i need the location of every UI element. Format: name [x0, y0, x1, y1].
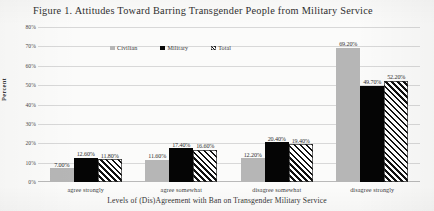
legend-item-military[interactable]: Military — [160, 45, 188, 51]
bar-civilian-agree-strongly[interactable]: 7.00% — [50, 168, 74, 182]
legend-label-military: Military — [167, 45, 188, 51]
y-tick-50: 50% — [10, 82, 36, 88]
bar-total-disagree-somewhat[interactable]: 19.40% — [289, 144, 313, 182]
x-category-disagree-somewhat: disagree somewhat — [229, 186, 325, 193]
bar-value-total-disagree-somewhat: 19.40% — [292, 138, 310, 144]
bar-value-civilian-disagree-somewhat: 12.20% — [244, 152, 262, 158]
bar-total-agree-strongly[interactable]: 11.80% — [98, 159, 122, 182]
bar-value-civilian-disagree-strongly: 69.20% — [339, 41, 357, 47]
bar-group-disagree-somewhat: 12.20% 20.40% 19.40% disagree somewhat — [229, 27, 325, 182]
bar-total-agree-somewhat[interactable]: 16.60% — [193, 150, 217, 182]
bar-value-military-disagree-strongly: 49.70% — [363, 79, 381, 85]
legend-item-civilian[interactable]: Civilian — [110, 45, 137, 51]
bar-military-agree-strongly[interactable]: 12.60% — [74, 158, 98, 182]
x-category-disagree-strongly: disagree strongly — [325, 186, 421, 193]
bar-civilian-disagree-strongly[interactable]: 69.20% — [336, 48, 360, 182]
bar-military-disagree-somewhat[interactable]: 20.40% — [265, 142, 289, 182]
bar-military-disagree-strongly[interactable]: 49.70% — [360, 86, 384, 182]
x-axis-title: Levels of (Dis)Agreement with Ban on Tra… — [0, 196, 434, 205]
legend-label-civilian: Civilian — [117, 45, 137, 51]
bar-civilian-agree-somewhat[interactable]: 11.60% — [145, 160, 169, 182]
legend-label-total: Total — [218, 45, 231, 51]
legend-swatch-civilian-icon — [110, 46, 115, 51]
y-tick-30: 30% — [10, 121, 36, 127]
legend-item-total[interactable]: Total — [211, 45, 231, 51]
y-tick-70: 70% — [10, 43, 36, 49]
bar-value-military-agree-strongly: 12.60% — [77, 151, 95, 157]
bar-military-agree-somewhat[interactable]: 17.40% — [169, 148, 193, 182]
bar-value-military-agree-somewhat: 17.40% — [172, 142, 190, 148]
y-axis-ticks: 0% 10% 20% 30% 40% 50% 60% 70% 80% — [0, 27, 36, 182]
y-tick-20: 20% — [10, 140, 36, 146]
bar-value-total-agree-somewhat: 16.60% — [196, 143, 214, 149]
legend-swatch-military-icon — [160, 46, 165, 51]
y-tick-0: 0% — [10, 179, 36, 185]
bar-total-disagree-strongly[interactable]: 52.20% — [384, 81, 408, 182]
chart-legend: Civilian Military Total — [110, 45, 231, 51]
y-tick-40: 40% — [10, 102, 36, 108]
bar-value-total-disagree-strongly: 52.20% — [387, 74, 405, 80]
legend-swatch-total-icon — [211, 46, 216, 51]
bar-civilian-disagree-somewhat[interactable]: 12.20% — [241, 158, 265, 182]
y-tick-10: 10% — [10, 160, 36, 166]
bar-value-military-disagree-somewhat: 20.40% — [268, 136, 286, 142]
bar-chart: Percent 0% 10% 20% 30% 40% 50% 60% 70% 8… — [0, 0, 434, 211]
bar-value-civilian-agree-somewhat: 11.60% — [148, 153, 166, 159]
bar-value-total-agree-strongly: 11.80% — [101, 153, 119, 159]
x-category-agree-somewhat: agree somewhat — [134, 186, 230, 193]
bar-group-disagree-strongly: 69.20% 49.70% 52.20% disagree strongly — [325, 27, 421, 182]
y-tick-80: 80% — [10, 24, 36, 30]
x-category-agree-strongly: agree strongly — [38, 186, 134, 193]
bar-value-civilian-agree-strongly: 7.00% — [54, 162, 69, 168]
y-tick-60: 60% — [10, 63, 36, 69]
